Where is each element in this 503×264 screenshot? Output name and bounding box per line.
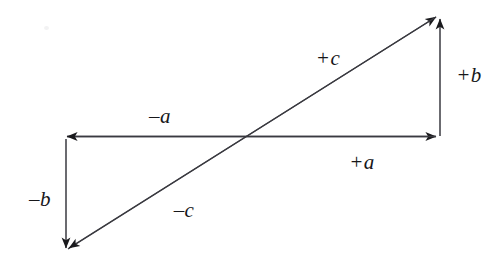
scan-artifact-speck	[44, 26, 49, 30]
vector-label-plus-a: +a	[349, 152, 374, 173]
vector-diagram-figure: –a +a +b –b +c –c	[0, 0, 503, 264]
vector-label-plus-b: +b	[456, 65, 481, 86]
vector-diagram-canvas	[0, 0, 503, 264]
vector-label-plus-c: +c	[316, 48, 340, 69]
vector-label-minus-a: –a	[149, 106, 171, 127]
vector-label-minus-b: –b	[29, 189, 51, 210]
vector-label-minus-c: –c	[174, 200, 195, 221]
vector-minus-c-line	[69, 17, 436, 248]
